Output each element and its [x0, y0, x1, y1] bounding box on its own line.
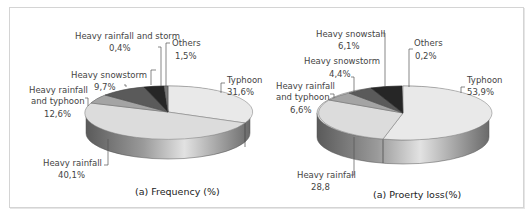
chart-panel: Heavy rainfall and storm 0,4% Others 1,5… — [9, 7, 524, 208]
label-others: Others — [414, 38, 443, 48]
label-rain-typhoon-2: and typhoon — [276, 92, 330, 102]
value-snowstorm: 4,4% — [329, 69, 351, 79]
caption-frequency: (a) Frequency (%) — [135, 186, 220, 197]
label-rain-typhoon-2: and typhoon — [31, 96, 85, 106]
value-typhoon: 53,9% — [467, 87, 494, 97]
value-others: 0,2% — [415, 51, 437, 61]
pie-charts: Heavy rainfall and storm 0,4% Others 1,5… — [1, 1, 529, 216]
label-rain-typhoon: Heavy rainfall — [276, 81, 335, 91]
label-rainfall: Heavy rainfall — [43, 158, 102, 168]
label-snowstorm: Heavy snowstorm — [304, 56, 380, 66]
value-rainfall: 40,1% — [58, 170, 85, 180]
label-typhoon: Typhoon — [466, 75, 502, 85]
value-others: 1,5% — [175, 51, 197, 61]
value-rain-typhoon: 12,6% — [44, 109, 71, 119]
value-storm: 0,4% — [109, 43, 131, 53]
label-rainfall: Heavy rainfall — [297, 170, 356, 180]
caption-property-loss: (a) Proerty loss(%) — [373, 189, 461, 200]
label-storm: Heavy rainfall and storm — [75, 31, 180, 41]
value-rain-typhoon: 6,6% — [290, 105, 312, 115]
value-snowstorm: 9,7% — [94, 82, 116, 92]
label-others: Others — [172, 38, 201, 48]
label-rain-typhoon: Heavy rainfall — [29, 85, 88, 95]
value-rainfall: 28,8 — [311, 182, 330, 192]
value-typhoon: 31,6% — [227, 87, 254, 97]
label-snowstall: Heavy snowstall — [316, 29, 385, 39]
label-typhoon: Typhoon — [226, 75, 262, 85]
property-loss-pie: Heavy snowstall 6,1% Others 0,2% Heavy s… — [276, 29, 502, 200]
label-snowstorm: Heavy snowstorm — [71, 70, 147, 80]
value-snowstall: 6,1% — [338, 41, 360, 51]
frequency-pie: Heavy rainfall and storm 0,4% Others 1,5… — [29, 31, 262, 197]
